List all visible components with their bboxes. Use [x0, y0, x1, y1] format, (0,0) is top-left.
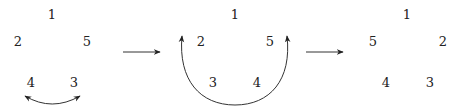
node-label: 1 [231, 8, 239, 21]
node-label: 3 [70, 76, 78, 89]
node-label: 2 [14, 35, 22, 48]
node-label: 4 [253, 76, 261, 89]
node-label: 4 [382, 76, 390, 89]
node-label: 3 [426, 76, 434, 89]
swap-arc-4-3 [25, 96, 80, 104]
permutation-diagram: 1 2 5 4 3 1 2 5 3 4 1 5 2 4 3 [0, 0, 462, 110]
node-label: 4 [27, 76, 35, 89]
node-label: 5 [83, 35, 91, 48]
node-label: 1 [48, 8, 56, 21]
node-label: 2 [439, 35, 447, 48]
node-label: 3 [209, 76, 217, 89]
node-label: 1 [403, 8, 411, 21]
node-label: 5 [369, 35, 377, 48]
node-label: 5 [266, 35, 274, 48]
node-label: 2 [197, 35, 205, 48]
